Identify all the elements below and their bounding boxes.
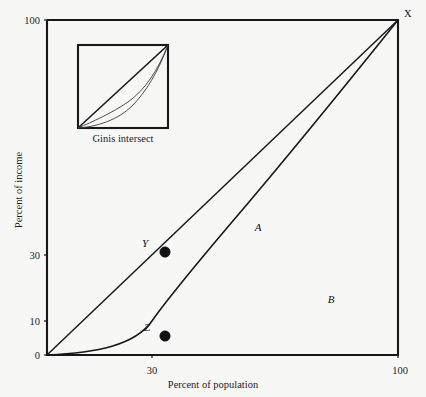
chart-labels-layer: 100 30 10 0 30 100 Percent of population…: [0, 0, 426, 397]
y-tick-label-10: 10: [30, 316, 41, 327]
region-label-b: B: [328, 293, 335, 305]
point-label-x: X: [404, 8, 412, 19]
lorenz-curve-figure: 100 30 10 0 30 100 Percent of population…: [0, 0, 426, 397]
point-label-z: Z: [144, 321, 151, 333]
x-tick-label-100: 100: [392, 365, 408, 376]
inset-caption: Ginis intersect: [93, 133, 154, 144]
region-label-a: A: [254, 221, 262, 233]
y-tick-label-30: 30: [30, 250, 41, 261]
y-tick-label-0: 0: [35, 350, 40, 361]
point-label-y: Y: [142, 237, 150, 249]
x-axis-title: Percent of population: [168, 379, 259, 390]
y-axis-title: Percent of income: [13, 151, 24, 228]
y-tick-label-100: 100: [24, 15, 40, 26]
x-tick-label-30: 30: [147, 365, 158, 376]
